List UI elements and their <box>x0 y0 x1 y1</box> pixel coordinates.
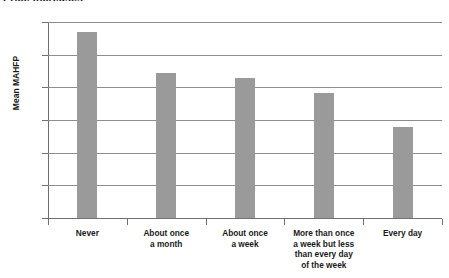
x-axis-category-label-line: a month <box>129 239 204 250</box>
bar-chart-figure: Price increases Mean MAHFP 024681012 Nev… <box>0 0 449 278</box>
x-axis-tick-mark <box>48 219 49 225</box>
bar <box>235 78 255 218</box>
x-axis-category-label-line: More than once <box>286 228 361 239</box>
x-axis-category-label: More than oncea week but lessthan every … <box>286 228 361 270</box>
bar <box>393 127 413 218</box>
x-axis-category-label-line: Every day <box>365 228 440 239</box>
x-axis-category-label-line: Never <box>50 228 125 239</box>
x-axis-tick-mark <box>442 219 443 225</box>
chart-title: Price increases <box>3 0 83 1</box>
x-axis-category-label: Every day <box>365 228 440 239</box>
plot-area <box>48 22 442 218</box>
x-axis-tick-mark <box>127 219 128 225</box>
bar <box>314 93 334 218</box>
x-axis-category-label-line: a week but less <box>286 239 361 250</box>
y-axis-title: Mean MAHFP <box>11 41 21 125</box>
bar <box>77 32 97 218</box>
x-axis-category-label-line: of the week <box>286 260 361 271</box>
gridline <box>48 22 442 23</box>
x-axis-category-label: Never <box>50 228 125 239</box>
x-axis-category-label: About oncea month <box>129 228 204 249</box>
x-axis-tick-mark <box>206 219 207 225</box>
x-axis-category-label-line: About once <box>129 228 204 239</box>
x-axis-line <box>48 218 442 219</box>
x-axis-category-label-line: a week <box>208 239 283 250</box>
x-axis-category-label-line: About once <box>208 228 283 239</box>
x-axis-category-label-line: than every day <box>286 249 361 260</box>
x-axis-category-label: About oncea week <box>208 228 283 249</box>
x-axis-tick-mark <box>363 219 364 225</box>
gridline <box>48 55 442 56</box>
x-axis-tick-mark <box>284 219 285 225</box>
bar <box>156 73 176 218</box>
